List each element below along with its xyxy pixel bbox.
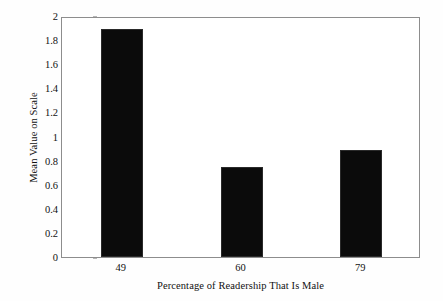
y-axis-tick-label: 2	[36, 12, 58, 23]
x-axis-tick-label: 60	[211, 263, 271, 274]
y-axis-tick-label: 1.2	[36, 108, 58, 119]
x-axis-tick-label: 49	[91, 263, 151, 274]
bars-container	[62, 18, 419, 257]
bar	[221, 167, 263, 257]
y-axis-tick-label: 0.2	[36, 229, 58, 240]
plot-area	[61, 17, 420, 258]
y-axis-tick-label: 1.4	[36, 84, 58, 95]
y-axis-tick-label: 1.6	[36, 60, 58, 71]
bar	[101, 29, 143, 257]
bar	[340, 150, 382, 257]
x-axis-title: Percentage of Readership That Is Male	[61, 281, 420, 292]
y-axis-tick-label: 1	[36, 132, 58, 143]
y-axis-tick-label: 0.8	[36, 156, 58, 167]
y-axis-tick-label: 0.4	[36, 205, 58, 216]
y-axis-tick-label: 0.6	[36, 180, 58, 191]
x-axis-tick-label: 79	[330, 263, 390, 274]
y-axis-tick-label: 1.8	[36, 36, 58, 47]
y-axis-tick-labels: 21.81.61.41.210.80.60.40.20	[36, 17, 58, 258]
y-axis-tick-label: 0	[36, 253, 58, 264]
bar-chart-figure: Mean Value on Scale 21.81.61.41.210.80.6…	[0, 0, 443, 301]
x-axis-tick-labels: 496079	[61, 260, 420, 276]
